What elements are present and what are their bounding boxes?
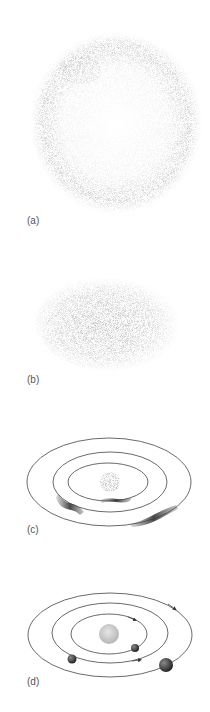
panel-label-c: (c) bbox=[27, 524, 39, 535]
solar-system-formation-diagram bbox=[0, 0, 210, 712]
panel-c-rings bbox=[27, 438, 191, 527]
arrow-outer bbox=[168, 604, 175, 609]
arrow-middle bbox=[132, 660, 140, 661]
panel-label-a: (a) bbox=[27, 215, 39, 226]
sun-icon bbox=[100, 472, 120, 492]
clump-inner bbox=[100, 497, 132, 503]
panel-label-b: (b) bbox=[27, 374, 39, 385]
planet-middle bbox=[68, 655, 77, 664]
panel-b-disk bbox=[36, 275, 188, 371]
panel-d-orbits bbox=[28, 593, 192, 677]
planet-inner bbox=[131, 644, 139, 652]
panel-label-d: (d) bbox=[27, 676, 39, 687]
panel-a-nebula bbox=[30, 32, 202, 214]
sun-icon bbox=[99, 624, 119, 644]
planet-outer bbox=[159, 658, 173, 672]
